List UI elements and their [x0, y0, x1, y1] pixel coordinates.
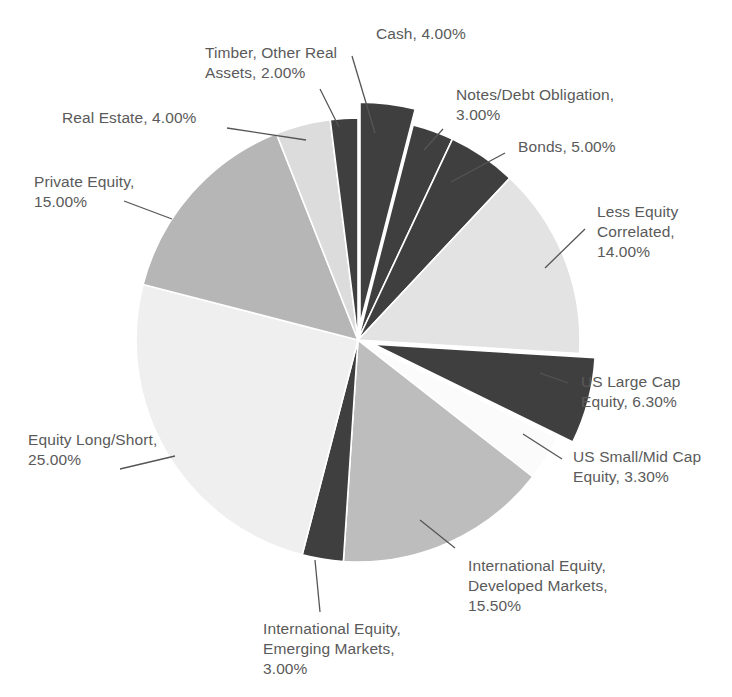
slice-label-equity-long-short: Equity Long/Short, 25.00% [28, 430, 157, 470]
slice-label-private-equity: Private Equity, 15.00% [34, 172, 134, 212]
slice-label-intl-developed: International Equity, Developed Markets,… [468, 556, 608, 616]
slice-label-us-small-mid-cap: US Small/Mid Cap Equity, 3.30% [573, 447, 701, 487]
slice-label-notes-debt: Notes/Debt Obligation, 3.00% [456, 85, 614, 125]
slice-label-us-large-cap: US Large Cap Equity, 6.30% [581, 372, 680, 412]
slice-label-less-equity-correlated: Less Equity Correlated, 14.00% [597, 202, 678, 262]
slice-label-bonds: Bonds, 5.00% [518, 137, 616, 157]
slice-label-intl-emerging: International Equity, Emerging Markets, … [263, 619, 401, 679]
pie-slice-group [136, 102, 595, 562]
slice-label-real-estate: Real Estate, 4.00% [62, 108, 197, 128]
pie-chart-canvas [0, 0, 732, 697]
leader-line-intl-emerging [315, 560, 320, 612]
pie-chart: Cash, 4.00% Notes/Debt Obligation, 3.00%… [0, 0, 732, 697]
slice-label-timber: Timber, Other Real Assets, 2.00% [205, 43, 337, 83]
slice-label-cash: Cash, 4.00% [376, 24, 466, 44]
